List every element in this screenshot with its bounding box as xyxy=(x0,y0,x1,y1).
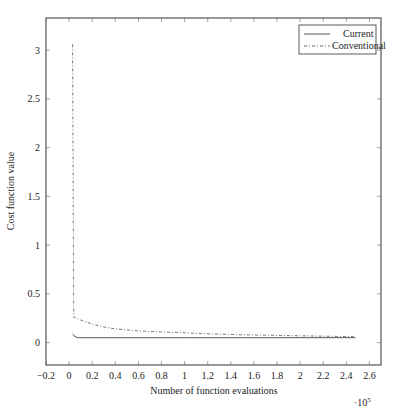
x-tick-label: 1.2 xyxy=(201,370,214,381)
x-tick-label: 1.6 xyxy=(248,370,261,381)
x-tick-label: −0.2 xyxy=(37,370,55,381)
x-tick-label: 1 xyxy=(182,370,187,381)
x-tick-label: 2.4 xyxy=(340,370,353,381)
x-tick-label: 1.8 xyxy=(271,370,284,381)
line-chart: −0.200.20.40.60.811.21.41.61.822.22.42.6… xyxy=(0,0,395,413)
legend: Current Conventional xyxy=(299,25,386,54)
y-tick-label: 2 xyxy=(35,142,40,153)
legend-conventional-label: Conventional xyxy=(332,40,386,51)
legend-current-label: Current xyxy=(343,28,374,39)
x-tick-label: 2.2 xyxy=(317,370,330,381)
x-tick-label: 2.6 xyxy=(363,370,376,381)
x-tick-label: 0.8 xyxy=(155,370,168,381)
x-tick-label: 0.2 xyxy=(86,370,99,381)
plot-frame xyxy=(46,18,381,365)
x-tick-label: 2 xyxy=(298,370,303,381)
x-tick-label: 1.4 xyxy=(225,370,238,381)
x-axis-label: Number of function evaluations xyxy=(150,385,278,396)
series-conventional xyxy=(73,44,356,336)
y-tick-label: 0 xyxy=(35,337,40,348)
y-tick-label: 3 xyxy=(35,45,40,56)
y-tick-label: 0.5 xyxy=(28,288,41,299)
x-tick-label: 0.4 xyxy=(109,370,122,381)
y-tick-label: 2.5 xyxy=(28,93,41,104)
x-tick-label: 0 xyxy=(67,370,72,381)
y-tick-label: 1.5 xyxy=(28,191,41,202)
y-tick-label: 1 xyxy=(35,240,40,251)
x-multiplier: ·105 xyxy=(354,396,371,408)
x-tick-label: 0.6 xyxy=(132,370,145,381)
y-axis-label: Cost function value xyxy=(5,151,16,230)
